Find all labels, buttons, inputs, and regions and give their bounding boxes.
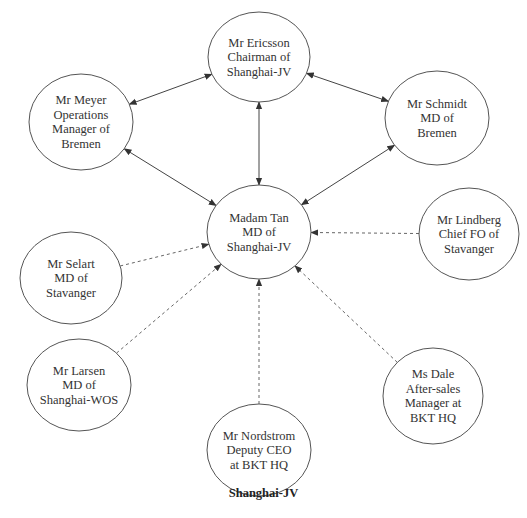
- node-label-line: Mr Larsen: [53, 364, 106, 378]
- node-label-line: Deputy CEO: [227, 443, 292, 457]
- node-label-line: Chief FO of: [439, 227, 500, 241]
- node-label-line: Shanghai-JV: [227, 65, 292, 79]
- node-label-line: MD of: [62, 378, 97, 392]
- node-tan: Madam TanMD ofShanghai-JV: [207, 185, 311, 279]
- node-label-line: Mr Selart: [47, 257, 95, 271]
- node-label-line: BKT HQ: [410, 411, 456, 425]
- node-label-line: Madam Tan: [229, 211, 289, 225]
- node-label-line: Stavanger: [444, 242, 495, 256]
- edge-meyer-to-tan: [124, 149, 216, 206]
- edge-schmidt-to-tan: [301, 145, 394, 205]
- edge-meyer-to-ericsson: [129, 74, 212, 104]
- node-label-line: Mr Meyer: [55, 93, 107, 107]
- node-label-line: at BKT HQ: [230, 458, 288, 472]
- diagram-caption: Shanghai-JV: [0, 486, 527, 501]
- node-label-line: MD of: [54, 271, 89, 285]
- edge-schmidt-to-ericsson: [307, 73, 389, 101]
- node-schmidt: Mr SchmidtMD ofBremen: [385, 71, 489, 165]
- node-label-line: Mr Schmidt: [407, 97, 468, 111]
- edge-dale-to-tan: [295, 266, 397, 362]
- node-label-line: Ms Dale: [412, 367, 455, 381]
- node-meyer: Mr MeyerOperationsManager ofBremen: [29, 74, 133, 170]
- node-lindberg: Mr LindbergChief FO ofStavanger: [419, 188, 519, 280]
- node-label-line: Shanghai-JV: [227, 240, 292, 254]
- node-label-line: After-sales: [406, 382, 461, 396]
- edge-selart-to-tan: [120, 244, 209, 266]
- node-label-line: Manager of: [52, 122, 111, 136]
- node-label-line: Stavanger: [46, 286, 97, 300]
- node-dale: Ms DaleAfter-salesManager atBKT HQ: [383, 348, 483, 444]
- node-selart: Mr SelartMD ofStavanger: [20, 232, 122, 324]
- node-label-line: Manager at: [405, 396, 462, 410]
- node-ericsson: Mr EricssonChairman ofShanghai-JV: [208, 12, 310, 102]
- node-label-line: Mr Lindberg: [437, 213, 502, 227]
- edge-larsen-to-tan: [116, 264, 221, 353]
- nodes-layer: Mr EricssonChairman ofShanghai-JVMr Meye…: [20, 12, 519, 496]
- node-label-line: Bremen: [61, 137, 101, 151]
- node-label-line: Shanghai-WOS: [40, 393, 119, 407]
- node-label-line: Chairman of: [228, 50, 292, 64]
- node-label-line: MD of: [420, 111, 455, 125]
- node-label-line: MD of: [242, 225, 277, 239]
- edge-lindberg-to-tan: [311, 232, 419, 233]
- node-label-line: Operations: [54, 108, 109, 122]
- node-label-line: Bremen: [417, 126, 457, 140]
- node-larsen: Mr LarsenMD ofShanghai-WOS: [27, 339, 131, 431]
- node-label-line: Mr Ericsson: [228, 36, 290, 50]
- node-label-line: Mr Nordstrom: [223, 429, 296, 443]
- node-nordstrom: Mr NordstromDeputy CEOat BKT HQ: [207, 404, 311, 496]
- org-relationship-diagram: Mr EricssonChairman ofShanghai-JVMr Meye…: [0, 0, 527, 518]
